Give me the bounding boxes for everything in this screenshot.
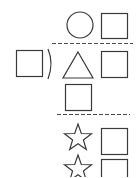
star-shape-1 <box>65 124 92 150</box>
left-square-shape <box>17 51 43 77</box>
answer-box-2[interactable] <box>102 52 128 78</box>
circle-shape <box>67 12 93 38</box>
star-shape-2 <box>65 155 92 177</box>
square-shape <box>66 85 92 111</box>
answer-box-4[interactable] <box>102 160 128 178</box>
answer-box-3[interactable] <box>102 129 128 155</box>
triangle-shape <box>63 52 93 78</box>
answer-box-1[interactable] <box>102 14 128 39</box>
shape-worksheet <box>0 0 137 177</box>
parenthesis-mark <box>48 49 51 79</box>
